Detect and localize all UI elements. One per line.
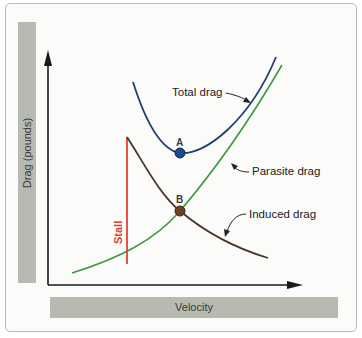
point-b-label: B bbox=[176, 194, 183, 205]
point-b-marker bbox=[175, 206, 185, 216]
point-a-label: A bbox=[176, 137, 183, 148]
total-drag-curve bbox=[133, 57, 276, 153]
point-a-marker bbox=[175, 148, 185, 158]
stall-label: Stall bbox=[112, 221, 124, 244]
total-drag-arrow-icon bbox=[243, 97, 251, 103]
y-axis-arrow-icon bbox=[44, 50, 52, 66]
parasite-drag-label: Parasite drag bbox=[252, 165, 320, 177]
x-axis-arrow-icon bbox=[287, 281, 303, 289]
induced-drag-leader bbox=[227, 214, 246, 232]
total-drag-label: Total drag bbox=[172, 86, 223, 98]
drag-diagram: Stall A B Total drag Parasite drag Induc… bbox=[0, 0, 362, 338]
induced-drag-label: Induced drag bbox=[249, 208, 316, 220]
induced-drag-arrow-icon bbox=[224, 229, 230, 237]
